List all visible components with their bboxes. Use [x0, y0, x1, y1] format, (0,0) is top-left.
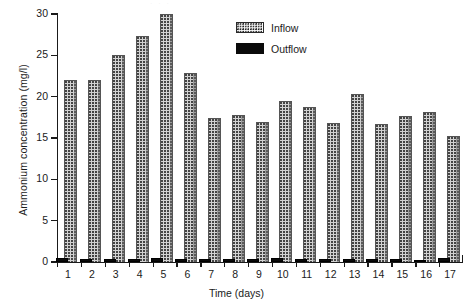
bar-inflow-day-2: [88, 80, 101, 262]
x-tick-5: [153, 262, 154, 267]
x-tick-16: [415, 262, 416, 267]
x-tick-4: [129, 262, 130, 267]
bar-outflow-day-6: [175, 259, 187, 262]
bar-inflow-day-16: [423, 112, 436, 262]
legend-item-inflow: Inflow: [236, 19, 307, 36]
bar-outflow-day-15: [390, 259, 402, 262]
x-tick-label-3: 3: [104, 268, 128, 280]
bar-outflow-day-14: [366, 259, 378, 262]
bar-outflow-day-8: [223, 259, 235, 262]
bar-outflow-day-11: [295, 259, 307, 262]
bar-inflow-day-7: [208, 118, 221, 262]
bar-inflow-day-14: [375, 124, 388, 262]
x-tick-6: [176, 262, 177, 267]
y-tick-label-0: 0: [22, 255, 48, 267]
bar-outflow-day-12: [319, 259, 331, 262]
bar-outflow-day-3: [104, 259, 116, 262]
bar-outflow-day-16: [414, 260, 426, 262]
bar-inflow-day-5: [160, 14, 173, 262]
y-tick-label-5: 5: [22, 214, 48, 226]
page-edge-artifact: · · ·: [150, 0, 350, 5]
bar-outflow-day-1: [56, 258, 68, 262]
chart-figure: · · · Ammonium concentration (mg/l) 0510…: [0, 0, 473, 308]
x-tick-7: [200, 262, 201, 267]
bar-inflow-day-8: [232, 115, 245, 262]
x-tick-label-4: 4: [128, 268, 152, 280]
x-tick-9: [248, 262, 249, 267]
chart-legend: Inflow Outflow: [236, 19, 307, 61]
bar-outflow-day-4: [128, 259, 140, 262]
x-tick-14: [367, 262, 368, 267]
legend-swatch-outflow-icon: [236, 43, 264, 54]
x-tick-label-2: 2: [80, 268, 104, 280]
x-tick-3: [105, 262, 106, 267]
y-tick-label-25: 25: [22, 48, 48, 60]
bar-outflow-day-13: [343, 259, 355, 262]
x-tick-label-6: 6: [175, 268, 199, 280]
legend-label-outflow: Outflow: [271, 43, 307, 55]
x-tick-label-1: 1: [56, 268, 80, 280]
x-tick-label-7: 7: [199, 268, 223, 280]
bar-outflow-day-2: [80, 259, 92, 262]
bar-outflow-day-5: [151, 258, 163, 262]
x-tick-label-9: 9: [247, 268, 271, 280]
bar-outflow-day-9: [247, 259, 259, 262]
x-tick-15: [391, 262, 392, 267]
x-tick-label-10: 10: [271, 268, 295, 280]
y-tick-label-20: 20: [22, 90, 48, 102]
x-tick-label-11: 11: [295, 268, 319, 280]
x-tick-11: [296, 262, 297, 267]
bar-inflow-day-3: [112, 55, 125, 262]
y-tick-label-10: 10: [22, 172, 48, 184]
legend-item-outflow: Outflow: [236, 40, 307, 57]
y-tick-label-15: 15: [22, 131, 48, 143]
bar-inflow-day-1: [64, 80, 77, 262]
x-tick-label-8: 8: [223, 268, 247, 280]
legend-swatch-inflow-icon: [236, 22, 264, 33]
bar-inflow-day-10: [279, 101, 292, 262]
x-tick-12: [320, 262, 321, 267]
bar-outflow-day-7: [199, 259, 211, 262]
bar-inflow-day-4: [136, 36, 149, 263]
bar-inflow-day-17: [447, 136, 460, 262]
bar-inflow-day-9: [256, 122, 269, 262]
bar-inflow-day-12: [327, 123, 340, 262]
bar-inflow-day-13: [351, 94, 364, 262]
x-tick-label-17: 17: [438, 268, 462, 280]
bar-outflow-day-10: [271, 258, 283, 262]
x-tick-label-12: 12: [319, 268, 343, 280]
x-tick-label-14: 14: [366, 268, 390, 280]
x-tick-8: [224, 262, 225, 267]
bar-inflow-day-6: [184, 73, 197, 262]
bar-inflow-day-15: [399, 116, 412, 262]
x-tick-2: [81, 262, 82, 267]
x-tick-10: [272, 262, 273, 267]
legend-label-inflow: Inflow: [271, 22, 298, 34]
bar-outflow-day-17: [438, 258, 450, 262]
x-tick-label-13: 13: [343, 268, 367, 280]
x-tick-13: [344, 262, 345, 267]
bar-inflow-day-11: [303, 107, 316, 262]
x-tick-17: [439, 262, 440, 267]
y-tick-label-30: 30: [22, 7, 48, 19]
x-tick-label-15: 15: [390, 268, 414, 280]
x-axis-title: Time (days): [0, 287, 473, 299]
x-tick-label-5: 5: [151, 268, 175, 280]
x-tick-label-16: 16: [414, 268, 438, 280]
x-tick-1: [57, 262, 58, 267]
